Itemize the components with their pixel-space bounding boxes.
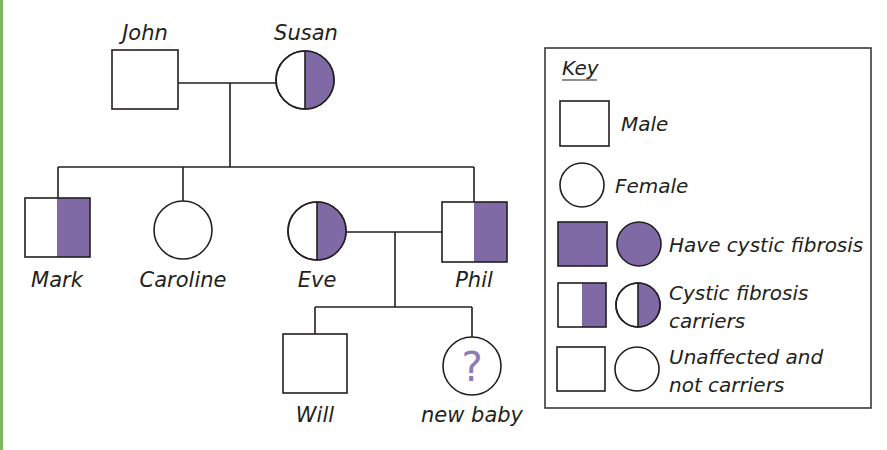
node-phil: Phil (442, 202, 507, 292)
node-susan: Susan (274, 21, 338, 109)
key-unaffected-label-1: Unaffected and (669, 345, 823, 369)
unaffected-circle-icon (615, 347, 659, 391)
pedigree-diagram: John Susan Mark Caroline Eve Phil (0, 0, 887, 450)
key-unaffected-label-2: not carriers (669, 373, 784, 397)
male-square-icon (560, 101, 609, 146)
label-mark: Mark (31, 268, 84, 292)
key-female-label: Female (615, 174, 688, 198)
key-affected-label: Have cystic fibrosis (669, 233, 863, 257)
carrier-half-fill-icon (474, 202, 507, 262)
key-male-label: Male (621, 112, 668, 136)
affected-square-icon (558, 222, 607, 266)
key-legend: Key Male Female Have cystic fibrosis Cys… (545, 48, 871, 408)
female-circle-icon (154, 201, 212, 259)
node-caroline: Caroline (140, 201, 227, 292)
label-caroline: Caroline (140, 268, 227, 292)
key-title: Key (562, 56, 600, 80)
female-circle-icon (560, 163, 604, 207)
key-carrier-label-2: carriers (669, 309, 745, 333)
label-will: Will (296, 403, 334, 427)
label-new-baby: new baby (421, 403, 524, 427)
label-phil: Phil (455, 268, 493, 292)
label-susan: Susan (274, 21, 338, 45)
question-mark-icon: ? (461, 344, 482, 390)
node-mark: Mark (25, 198, 90, 292)
node-john: John (112, 21, 178, 109)
node-eve: Eve (288, 202, 346, 292)
node-new-baby: ? new baby (421, 337, 524, 427)
carrier-half-fill-icon (305, 51, 334, 109)
label-john: John (118, 21, 168, 45)
affected-circle-icon (617, 222, 661, 266)
node-will: Will (283, 334, 347, 427)
carrier-half-fill-icon (317, 202, 346, 260)
male-square-icon (112, 50, 178, 109)
unaffected-square-icon (557, 347, 605, 391)
label-eve: Eve (298, 268, 337, 292)
key-carrier-label-1: Cystic fibrosis (669, 281, 808, 305)
male-square-icon (283, 334, 347, 393)
carrier-half-fill-icon (57, 198, 90, 257)
